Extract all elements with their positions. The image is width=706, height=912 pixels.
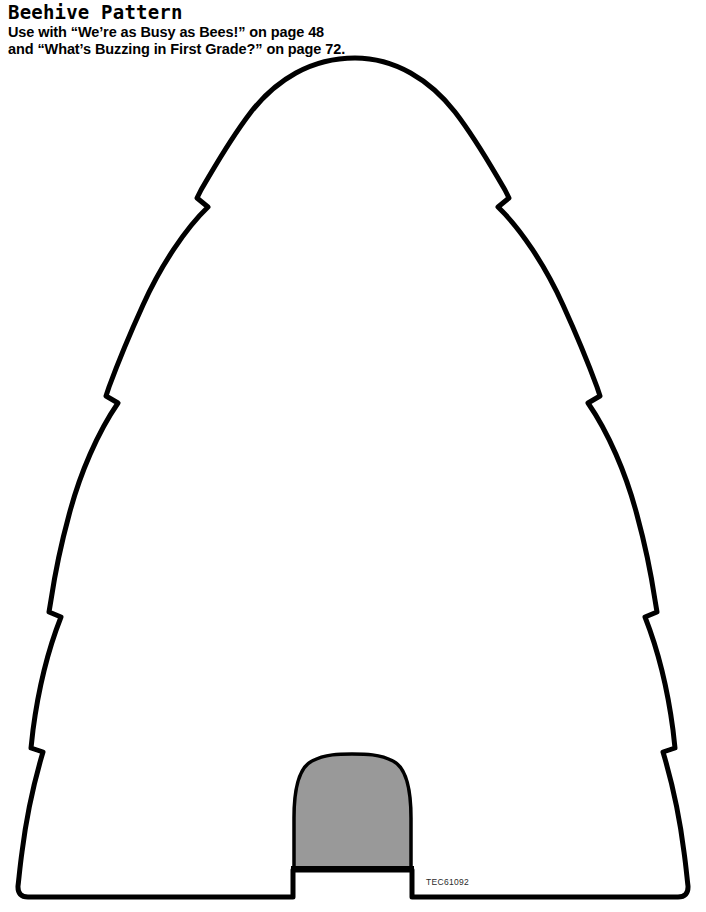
- beehive-illustration: [0, 0, 706, 912]
- product-code: TEC61092: [426, 877, 469, 887]
- instructions-line-2: and “What’s Buzzing in First Grade?” on …: [8, 41, 488, 58]
- beehive-entrance: [294, 754, 411, 869]
- pattern-page: Beehive Pattern Use with “We’re as Busy …: [0, 0, 706, 912]
- header: Beehive Pattern Use with “We’re as Busy …: [8, 2, 488, 57]
- page-title: Beehive Pattern: [8, 2, 488, 22]
- instructions-line-1: Use with “We’re as Busy as Bees!” on pag…: [8, 24, 488, 41]
- beehive-entrance-sill: [291, 866, 414, 872]
